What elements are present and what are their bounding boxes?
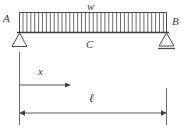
- support-roller-right: [158, 33, 175, 49]
- beam-diagram-svg: [0, 0, 184, 128]
- support-label-b: B: [172, 16, 179, 27]
- load-hatch-lines: [23, 13, 163, 32]
- dimension-span: [19, 110, 167, 116]
- dimension-x-arrowhead: [65, 83, 71, 88]
- pin-triangle: [12, 33, 27, 47]
- load-label: w: [87, 1, 94, 12]
- distributed-load-group: [19, 13, 167, 33]
- support-pin-left: [12, 33, 27, 47]
- roller-triangle: [159, 33, 174, 46]
- dimension-label-span: ℓ: [89, 92, 94, 104]
- support-label-a: A: [3, 13, 10, 24]
- dimension-label-x: x: [38, 66, 43, 77]
- midpoint-label-c: C: [86, 39, 93, 50]
- dimension-x: [20, 83, 72, 88]
- beam-diagram-figure: w A B C x ℓ: [0, 0, 184, 128]
